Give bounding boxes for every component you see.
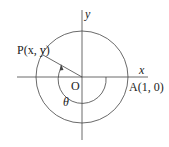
angle-theta-label: θ: [63, 95, 69, 109]
x-axis-label: x: [138, 63, 145, 77]
origin-label: O: [71, 79, 80, 93]
y-axis-label: y: [84, 7, 91, 21]
point-a-label: A(1, 0): [129, 80, 164, 94]
point-p-label: P(x, y): [17, 43, 50, 57]
unit-circle-diagram: y x O P(x, y) A(1, 0) θ: [0, 0, 169, 147]
radius-op: [43, 55, 82, 77]
